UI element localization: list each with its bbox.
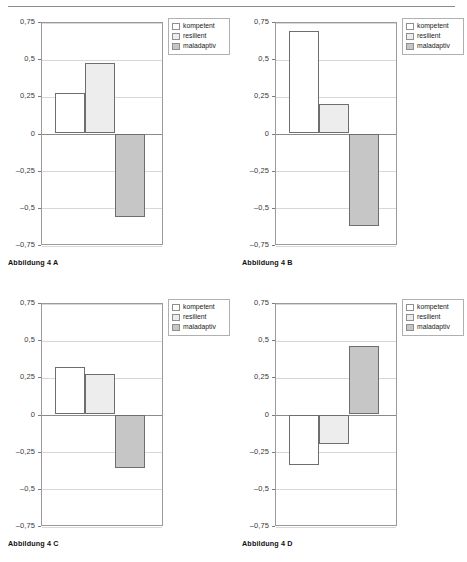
gridline — [42, 246, 162, 247]
y-axis-tick-label: 0 — [235, 411, 269, 419]
y-axis-tick-label: 0,75 — [1, 18, 35, 26]
chart-a: 0,750,50,250–0,25–0,5–0,75kompetentresil… — [0, 0, 233, 255]
legend-label: maladaptiv — [183, 324, 216, 331]
bar-series — [41, 303, 163, 526]
legend-label: resilient — [183, 314, 206, 321]
chart-d: 0,750,50,250–0,25–0,5–0,75kompetentresil… — [234, 281, 467, 536]
figure-grid: 0,750,50,250–0,25–0,5–0,75kompetentresil… — [0, 0, 467, 562]
y-axis-tick-label: 0,75 — [235, 299, 269, 307]
bar-kompetent — [289, 31, 319, 134]
chart-b: 0,750,50,250–0,25–0,5–0,75kompetentresil… — [234, 0, 467, 255]
bar-series — [275, 22, 397, 245]
chart-legend: kompetentresilientmaladaptiv — [402, 18, 464, 55]
legend-swatch-icon — [406, 43, 414, 50]
legend-item-resilient: resilient — [172, 313, 226, 322]
bar-series — [275, 303, 397, 526]
y-axis-tick-label: –0,25 — [1, 448, 35, 456]
figure-caption-b: Abbildung 4 B — [242, 258, 293, 267]
y-axis-tick-label: 0 — [1, 411, 35, 419]
bar-maladaptiv — [349, 346, 379, 414]
legend-item-maladaptiv: maladaptiv — [172, 42, 226, 51]
bar-resilient — [85, 374, 115, 415]
y-axis-tick-label: –0,25 — [1, 167, 35, 175]
legend-label: kompetent — [183, 304, 215, 311]
y-axis-tick-label: 0,5 — [235, 336, 269, 344]
legend-label: kompetent — [417, 23, 449, 30]
legend-swatch-icon — [406, 33, 414, 40]
legend-item-resilient: resilient — [172, 32, 226, 41]
legend-swatch-icon — [172, 324, 180, 331]
bar-maladaptiv — [115, 134, 145, 217]
y-axis-tick-label: 0 — [235, 130, 269, 138]
bar-resilient — [85, 63, 115, 134]
y-axis-tick-label: –0,25 — [235, 448, 269, 456]
figure-caption-a: Abbildung 4 A — [8, 258, 58, 267]
legend-label: resilient — [183, 33, 206, 40]
bar-resilient — [319, 104, 349, 134]
chart-legend: kompetentresilientmaladaptiv — [168, 299, 230, 336]
legend-item-kompetent: kompetent — [172, 303, 226, 312]
bar-kompetent — [289, 415, 319, 466]
figure-panel-d: 0,750,50,250–0,25–0,5–0,75kompetentresil… — [234, 281, 467, 562]
figure-panel-a: 0,750,50,250–0,25–0,5–0,75kompetentresil… — [0, 0, 233, 281]
legend-swatch-icon — [172, 304, 180, 311]
legend-item-kompetent: kompetent — [406, 22, 460, 31]
y-axis-tick-label: –0,75 — [235, 522, 269, 530]
legend-label: kompetent — [417, 304, 449, 311]
tick-mark — [38, 526, 41, 527]
y-axis-tick-label: 0,25 — [235, 92, 269, 100]
legend-item-kompetent: kompetent — [406, 303, 460, 312]
y-axis-tick-label: –0,75 — [1, 241, 35, 249]
y-axis-tick-label: 0,25 — [1, 92, 35, 100]
legend-item-kompetent: kompetent — [172, 22, 226, 31]
chart-legend: kompetentresilientmaladaptiv — [168, 18, 230, 55]
tick-mark — [38, 245, 41, 246]
bar-maladaptiv — [349, 134, 379, 226]
legend-label: maladaptiv — [417, 43, 450, 50]
y-axis-tick-label: 0 — [1, 130, 35, 138]
legend-swatch-icon — [406, 324, 414, 331]
legend-label: resilient — [417, 314, 440, 321]
gridline — [42, 527, 162, 528]
legend-label: maladaptiv — [417, 324, 450, 331]
y-axis-tick-label: –0,5 — [1, 485, 35, 493]
legend-swatch-icon — [172, 314, 180, 321]
y-axis-tick-label: 0,25 — [1, 373, 35, 381]
bar-resilient — [319, 415, 349, 445]
y-axis-tick-label: –0,5 — [235, 204, 269, 212]
y-axis-tick-label: 0,5 — [235, 55, 269, 63]
bar-kompetent — [55, 93, 85, 133]
legend-item-resilient: resilient — [406, 32, 460, 41]
figure-caption-d: Abbildung 4 D — [242, 539, 293, 548]
legend-swatch-icon — [172, 23, 180, 30]
legend-label: resilient — [417, 33, 440, 40]
legend-label: maladaptiv — [183, 43, 216, 50]
legend-swatch-icon — [406, 23, 414, 30]
legend-swatch-icon — [406, 304, 414, 311]
y-axis-tick-label: 0,25 — [235, 373, 269, 381]
legend-swatch-icon — [406, 314, 414, 321]
y-axis-tick-label: –0,5 — [235, 485, 269, 493]
y-axis-tick-label: 0,5 — [1, 55, 35, 63]
bar-kompetent — [55, 367, 85, 415]
y-axis-tick-label: –0,75 — [235, 241, 269, 249]
y-axis-tick-label: 0,75 — [235, 18, 269, 26]
legend-item-maladaptiv: maladaptiv — [406, 323, 460, 332]
legend-swatch-icon — [172, 43, 180, 50]
chart-c: 0,750,50,250–0,25–0,5–0,75kompetentresil… — [0, 281, 233, 536]
chart-legend: kompetentresilientmaladaptiv — [402, 299, 464, 336]
gridline — [276, 246, 396, 247]
figure-caption-c: Abbildung 4 C — [8, 539, 59, 548]
gridline — [276, 527, 396, 528]
bar-maladaptiv — [115, 415, 145, 469]
y-axis-tick-label: –0,25 — [235, 167, 269, 175]
y-axis-tick-label: –0,75 — [1, 522, 35, 530]
legend-item-maladaptiv: maladaptiv — [406, 42, 460, 51]
y-axis-tick-label: 0,75 — [1, 299, 35, 307]
bar-series — [41, 22, 163, 245]
legend-label: kompetent — [183, 23, 215, 30]
legend-item-resilient: resilient — [406, 313, 460, 322]
figure-panel-b: 0,750,50,250–0,25–0,5–0,75kompetentresil… — [234, 0, 467, 281]
tick-mark — [272, 245, 275, 246]
legend-swatch-icon — [172, 33, 180, 40]
